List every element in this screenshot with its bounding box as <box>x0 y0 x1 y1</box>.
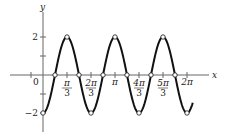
x-tick-label-denominator: 3 <box>88 88 94 98</box>
data-point <box>173 73 177 77</box>
x-tick-label-numerator: 5π <box>157 78 170 88</box>
data-point <box>149 73 153 77</box>
x-tick-label-denominator: 3 <box>64 88 70 98</box>
data-point <box>161 35 165 39</box>
x-axis-label: x <box>212 70 217 80</box>
data-point <box>113 35 117 39</box>
data-point <box>101 73 105 77</box>
x-tick-label-denominator: 3 <box>136 88 142 98</box>
data-point <box>125 73 129 77</box>
data-point <box>41 111 45 115</box>
axes <box>10 12 209 132</box>
data-point <box>137 111 141 115</box>
y-tick-label: 2 <box>32 32 38 42</box>
chart: xy0π32π3π4π35π32π2−2 <box>0 0 225 137</box>
x-tick-label: π <box>111 77 119 87</box>
data-point <box>65 35 69 39</box>
x-tick-label-numerator: 4π <box>132 78 146 88</box>
x-tick-label-numerator: π <box>63 78 71 88</box>
x-tick-label-denominator: 3 <box>160 88 166 98</box>
origin-label: 0 <box>33 77 39 87</box>
tick-labels: xy0π32π3π4π35π32π2−2 <box>25 2 217 118</box>
x-tick-label-numerator: 2π <box>84 78 98 88</box>
data-point <box>53 73 57 77</box>
x-tick-label: 2π <box>180 77 194 87</box>
data-point <box>185 111 189 115</box>
data-point <box>89 111 93 115</box>
y-tick-label: −2 <box>25 108 38 118</box>
y-axis-label: y <box>39 2 46 12</box>
data-point <box>77 73 81 77</box>
